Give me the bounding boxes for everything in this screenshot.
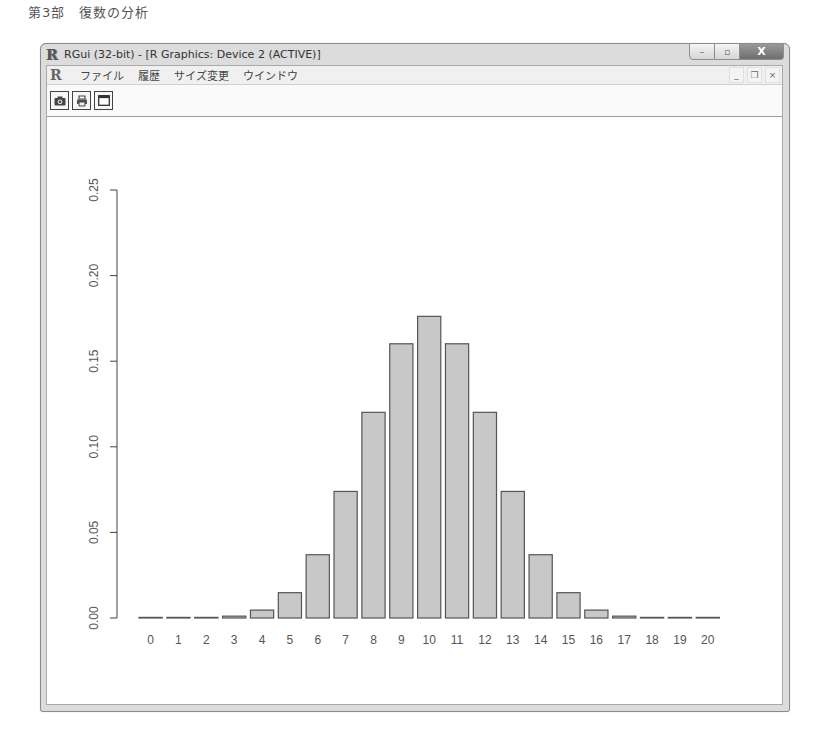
page-header: 第3部 復数の分析	[28, 2, 149, 21]
close-button[interactable]: X	[740, 43, 784, 60]
mdi-close-button[interactable]: ×	[765, 67, 780, 83]
minimize-icon: _	[734, 70, 739, 80]
r-logo-icon: R	[46, 48, 60, 62]
y-tick-label: 0.20	[87, 264, 101, 288]
bar-9	[390, 344, 413, 618]
bar-1	[167, 617, 190, 618]
y-tick-label: 0.15	[87, 349, 101, 373]
menu-resize[interactable]: サイズ変更	[174, 67, 229, 83]
bar-3	[223, 616, 246, 618]
mdi-restore-button[interactable]: ❐	[747, 67, 762, 83]
close-icon: X	[757, 45, 765, 58]
x-tick-label: 0	[147, 633, 154, 647]
bar-12	[473, 412, 496, 618]
y-tick-label: 0.25	[87, 178, 101, 202]
new-window-button[interactable]	[94, 91, 113, 110]
minimize-icon: –	[700, 47, 705, 57]
bar-20	[696, 617, 719, 618]
menu-bar: R ファイル 履歴 サイズ変更 ウインドウ _ ❐ ×	[47, 66, 782, 85]
x-tick-label: 11	[451, 633, 464, 647]
x-tick-label: 6	[314, 633, 321, 647]
bar-16	[585, 610, 608, 618]
maximize-button[interactable]: ▫	[715, 43, 740, 60]
x-tick-label: 18	[645, 633, 659, 647]
x-tick-label: 12	[478, 633, 492, 647]
x-tick-label: 17	[618, 633, 632, 647]
title-bar[interactable]: R RGui (32-bit) - [R Graphics: Device 2 …	[41, 44, 789, 65]
bar-17	[613, 616, 636, 618]
bar-5	[278, 593, 301, 618]
bar-15	[557, 593, 580, 618]
menu-window[interactable]: ウインドウ	[243, 67, 298, 83]
copy-metafile-button[interactable]	[50, 91, 69, 110]
x-tick-label: 15	[562, 633, 576, 647]
window-controls: – ▫ X	[689, 43, 784, 61]
x-tick-label: 2	[203, 633, 210, 647]
window-title: RGui (32-bit) - [R Graphics: Device 2 (A…	[64, 48, 321, 61]
bar-7	[334, 491, 357, 618]
mdi-controls: _ ❐ ×	[729, 67, 780, 83]
graphics-device-client: R ファイル 履歴 サイズ変更 ウインドウ _ ❐ ×	[46, 65, 783, 705]
x-tick-label: 20	[701, 633, 715, 647]
maximize-icon: ▫	[724, 47, 730, 57]
bar-18	[640, 617, 663, 618]
x-tick-label: 13	[506, 633, 520, 647]
x-tick-label: 8	[370, 633, 377, 647]
x-tick-label: 19	[673, 633, 687, 647]
r-menu-logo-icon[interactable]: R	[50, 67, 66, 83]
x-tick-label: 14	[534, 633, 548, 647]
bar-6	[306, 555, 329, 618]
bar-11	[445, 344, 468, 618]
y-tick-label: 0.05	[87, 520, 101, 544]
y-tick-label: 0.00	[87, 606, 101, 630]
rgui-window: R RGui (32-bit) - [R Graphics: Device 2 …	[40, 43, 790, 712]
toolbar	[47, 85, 782, 117]
printer-icon	[76, 95, 88, 107]
x-tick-label: 1	[175, 633, 182, 647]
plot-area: 0.000.050.100.150.200.250123456789101112…	[47, 117, 782, 704]
bar-2	[195, 617, 218, 618]
minimize-button[interactable]: –	[689, 43, 715, 60]
x-tick-label: 16	[590, 633, 604, 647]
y-tick-label: 0.10	[87, 435, 101, 459]
bar-14	[529, 555, 552, 618]
x-tick-label: 4	[259, 633, 266, 647]
restore-icon: ❐	[750, 70, 758, 80]
camera-icon	[54, 96, 66, 106]
x-tick-label: 10	[423, 633, 437, 647]
bar-19	[668, 617, 691, 618]
bar-chart: 0.000.050.100.150.200.250123456789101112…	[47, 117, 785, 707]
mdi-minimize-button[interactable]: _	[729, 67, 744, 83]
bar-13	[501, 491, 524, 618]
x-tick-label: 7	[342, 633, 349, 647]
menu-history[interactable]: 履歴	[138, 67, 160, 83]
menu-file[interactable]: ファイル	[80, 67, 124, 83]
print-button[interactable]	[72, 91, 91, 110]
bar-4	[250, 610, 273, 618]
x-tick-label: 9	[398, 633, 405, 647]
close-icon: ×	[769, 70, 777, 80]
bar-10	[418, 316, 441, 618]
bar-0	[139, 617, 162, 618]
bar-8	[362, 412, 385, 618]
window-icon	[98, 95, 110, 106]
x-tick-label: 5	[287, 633, 294, 647]
x-tick-label: 3	[231, 633, 238, 647]
